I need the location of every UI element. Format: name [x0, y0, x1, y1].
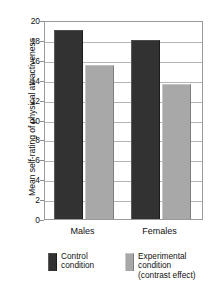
legend-label: Controlcondition: [61, 252, 94, 271]
legend-swatch-experimental-icon: [125, 253, 134, 271]
bar-females-control: [131, 40, 160, 219]
bar-males-experimental: [85, 65, 114, 219]
y-axis-tick-label: 14: [18, 76, 40, 86]
x-axis-label-males: Males: [43, 226, 123, 236]
y-axis-tick-label: 2: [18, 195, 40, 205]
y-axis-tick-label: 18: [18, 36, 40, 46]
y-axis-tick-label: 4: [18, 175, 40, 185]
bar-females-experimental: [162, 84, 191, 219]
legend-entry-experimental: Experimentalcondition(contrast effect): [125, 252, 196, 280]
y-axis-tick-label: 8: [18, 135, 40, 145]
legend-label-line: condition: [61, 261, 94, 270]
y-axis-tick-label: 20: [18, 16, 40, 26]
chart-legend: ControlconditionExperimentalcondition(co…: [0, 250, 218, 300]
legend-label: Experimentalcondition(contrast effect): [138, 252, 196, 280]
y-axis-tick-label: 6: [18, 155, 40, 165]
legend-label-line: (contrast effect): [138, 271, 196, 280]
legend-entry-control: Controlcondition: [48, 252, 94, 271]
y-axis-tick-mark: [40, 220, 44, 221]
bar-males-control: [54, 30, 83, 219]
y-axis-tick-label: 16: [18, 56, 40, 66]
legend-swatch-control-icon: [48, 253, 57, 271]
plot-area: [44, 21, 203, 220]
x-axis-label-females: Females: [120, 226, 200, 236]
bar-chart-figure: Mean self-rating of physical attractiven…: [0, 0, 218, 303]
y-axis-tick-label: 12: [18, 96, 40, 106]
y-axis-tick-label: 10: [18, 116, 40, 126]
y-axis-tick-label: 0: [18, 215, 40, 225]
